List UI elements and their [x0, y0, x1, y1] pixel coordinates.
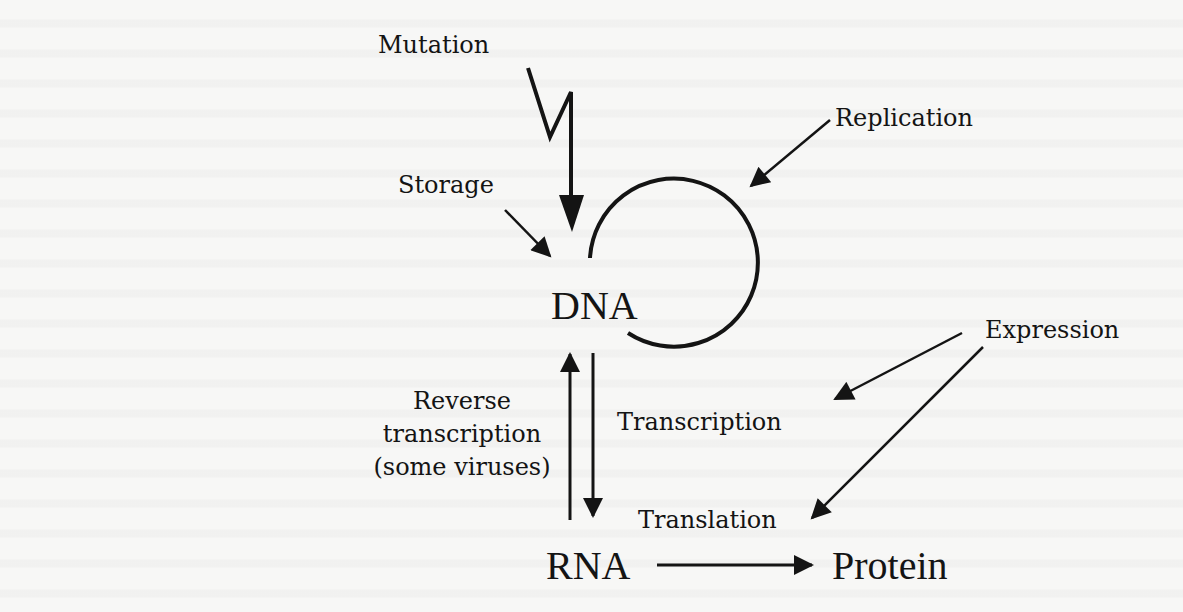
expression-to-transcription-arrow-icon: [835, 333, 962, 399]
dna-node: DNA: [551, 286, 638, 326]
mutation-label: Mutation: [378, 33, 489, 57]
reverse-transcription-line-1: Reverse: [362, 385, 562, 418]
storage-arrow-icon: [505, 210, 550, 256]
reverse-transcription-line-3: (some viruses): [362, 451, 562, 484]
expression-label: Expression: [985, 318, 1119, 342]
transcription-label: Transcription: [617, 410, 782, 434]
reverse-transcription-line-2: transcription: [362, 418, 562, 451]
expression-to-translation-arrow-icon: [812, 347, 983, 518]
rna-node: RNA: [546, 546, 630, 586]
mutation-zigzag-arrow-icon: [528, 68, 584, 232]
translation-label: Translation: [638, 508, 777, 532]
replication-arrow-icon: [751, 120, 830, 186]
storage-label: Storage: [398, 173, 494, 197]
reverse-transcription-label: Reverse transcription (some viruses): [362, 385, 562, 484]
replication-label: Replication: [835, 106, 973, 130]
protein-node: Protein: [832, 546, 948, 586]
